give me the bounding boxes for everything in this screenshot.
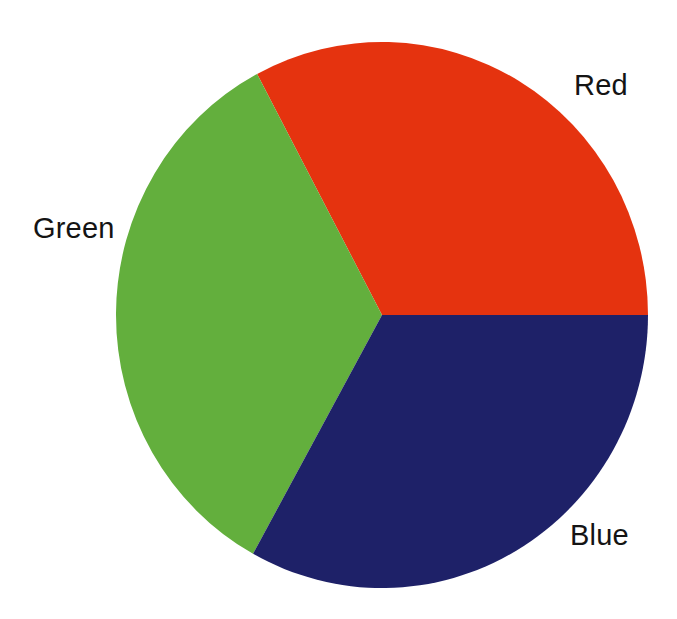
pie-chart: Red Green Blue bbox=[0, 0, 677, 619]
pie-label-red: Red bbox=[574, 71, 628, 100]
pie-label-green: Green bbox=[33, 214, 115, 243]
pie-slices bbox=[116, 42, 648, 588]
pie-label-blue: Blue bbox=[570, 521, 629, 550]
